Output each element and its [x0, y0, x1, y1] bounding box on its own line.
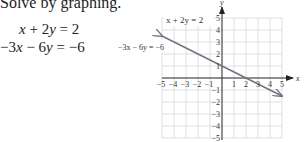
- y-tick: −1: [211, 86, 220, 95]
- x-axis-label: x: [295, 74, 300, 83]
- x-tick: −5: [157, 80, 166, 89]
- y-tick: −2: [211, 98, 220, 107]
- y-axis-label: y: [219, 0, 224, 7]
- x-tick: −4: [169, 80, 178, 89]
- x-tick: 3: [256, 80, 260, 89]
- y-tick: −3: [211, 110, 220, 119]
- line-label-eq1: x + 2y = 2: [166, 15, 203, 25]
- y-tick: 1: [216, 62, 220, 71]
- x-tick: 4: [268, 80, 272, 89]
- y-tick: 3: [216, 38, 220, 47]
- y-tick: 4: [216, 26, 220, 35]
- coordinate-graph: x y −5 −4 −3 −2 −1 1 2 3 4 5 5 4 3 2 1 −…: [0, 0, 304, 142]
- x-tick: 5: [280, 80, 284, 89]
- x-tick: 1: [232, 80, 236, 89]
- x-tick: −2: [193, 80, 202, 89]
- line-label-eq2: −3x − 6y = −6: [118, 43, 164, 52]
- x-tick: 2: [244, 80, 248, 89]
- y-tick: −5: [211, 134, 220, 142]
- x-tick: −3: [181, 80, 190, 89]
- y-tick: −4: [211, 122, 220, 131]
- y-tick: 5: [216, 14, 220, 23]
- y-tick: 2: [216, 50, 220, 59]
